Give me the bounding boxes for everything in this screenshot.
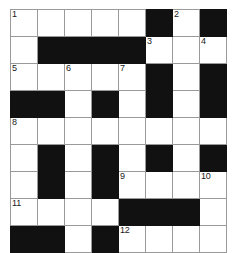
crossword-open-cell[interactable] bbox=[173, 64, 200, 91]
crossword-open-cell[interactable] bbox=[119, 10, 146, 37]
crossword-open-cell[interactable] bbox=[65, 172, 92, 199]
crossword-open-cell[interactable]: 6 bbox=[65, 64, 92, 91]
cell-number: 5 bbox=[12, 64, 17, 75]
crossword-row: 34 bbox=[11, 37, 227, 64]
cell-number: 4 bbox=[201, 37, 206, 48]
crossword-block-cell bbox=[92, 226, 119, 253]
crossword-block-cell bbox=[146, 91, 173, 118]
crossword-open-cell[interactable] bbox=[173, 91, 200, 118]
crossword-open-cell[interactable] bbox=[173, 145, 200, 172]
crossword-open-cell[interactable] bbox=[65, 226, 92, 253]
crossword-open-cell[interactable] bbox=[65, 91, 92, 118]
crossword-open-cell[interactable]: 12 bbox=[119, 226, 146, 253]
cell-number: 8 bbox=[12, 118, 17, 129]
crossword-open-cell[interactable] bbox=[92, 118, 119, 145]
crossword-open-cell[interactable] bbox=[92, 64, 119, 91]
crossword-row: 11 bbox=[11, 199, 227, 226]
crossword-open-cell[interactable] bbox=[65, 10, 92, 37]
crossword-open-cell[interactable] bbox=[200, 199, 227, 226]
cell-number: 2 bbox=[174, 10, 179, 21]
crossword-block-cell bbox=[146, 199, 173, 226]
crossword-block-cell bbox=[200, 91, 227, 118]
crossword-open-cell[interactable] bbox=[173, 37, 200, 64]
crossword-open-cell[interactable] bbox=[173, 226, 200, 253]
crossword-open-cell[interactable]: 11 bbox=[11, 199, 38, 226]
cell-number: 12 bbox=[120, 226, 130, 237]
crossword-open-cell[interactable] bbox=[92, 10, 119, 37]
crossword-block-cell bbox=[38, 91, 65, 118]
crossword-block-cell bbox=[38, 172, 65, 199]
crossword-block-cell bbox=[38, 226, 65, 253]
crossword-open-cell[interactable] bbox=[173, 118, 200, 145]
crossword-open-cell[interactable]: 10 bbox=[200, 172, 227, 199]
crossword-open-cell[interactable]: 4 bbox=[200, 37, 227, 64]
crossword-open-cell[interactable] bbox=[38, 64, 65, 91]
crossword-open-cell[interactable]: 5 bbox=[11, 64, 38, 91]
crossword-open-cell[interactable] bbox=[200, 226, 227, 253]
crossword-block-cell bbox=[11, 226, 38, 253]
crossword-grid-body: 123456789101112 bbox=[11, 10, 227, 253]
cell-number: 3 bbox=[147, 37, 152, 48]
crossword-open-cell[interactable] bbox=[11, 172, 38, 199]
crossword-row bbox=[11, 145, 227, 172]
crossword-open-cell[interactable] bbox=[119, 118, 146, 145]
crossword-open-cell[interactable]: 7 bbox=[119, 64, 146, 91]
crossword-open-cell[interactable] bbox=[38, 118, 65, 145]
crossword-open-cell[interactable] bbox=[92, 199, 119, 226]
crossword-open-cell[interactable] bbox=[146, 172, 173, 199]
crossword-block-cell bbox=[146, 145, 173, 172]
crossword-open-cell[interactable]: 9 bbox=[119, 172, 146, 199]
crossword-grid[interactable]: 123456789101112 bbox=[10, 9, 227, 253]
cell-number: 11 bbox=[12, 199, 21, 210]
cell-number: 9 bbox=[120, 172, 125, 183]
crossword-block-cell bbox=[11, 91, 38, 118]
cell-number: 1 bbox=[12, 10, 17, 21]
crossword-open-cell[interactable] bbox=[119, 145, 146, 172]
crossword-open-cell[interactable] bbox=[38, 10, 65, 37]
crossword-open-cell[interactable] bbox=[119, 91, 146, 118]
crossword-open-cell[interactable]: 2 bbox=[173, 10, 200, 37]
crossword-block-cell bbox=[200, 145, 227, 172]
crossword-block-cell bbox=[65, 37, 92, 64]
crossword-open-cell[interactable] bbox=[146, 226, 173, 253]
crossword-open-cell[interactable]: 8 bbox=[11, 118, 38, 145]
crossword-block-cell bbox=[38, 37, 65, 64]
cell-number: 7 bbox=[120, 64, 125, 75]
crossword-block-cell bbox=[200, 64, 227, 91]
crossword-row: 12 bbox=[11, 10, 227, 37]
crossword-open-cell[interactable] bbox=[173, 172, 200, 199]
crossword-open-cell[interactable] bbox=[65, 199, 92, 226]
crossword-row bbox=[11, 91, 227, 118]
crossword-open-cell[interactable] bbox=[11, 37, 38, 64]
crossword-block-cell bbox=[92, 172, 119, 199]
crossword-open-cell[interactable] bbox=[38, 199, 65, 226]
crossword-block-cell bbox=[38, 145, 65, 172]
crossword-block-cell bbox=[119, 199, 146, 226]
crossword-open-cell[interactable] bbox=[146, 118, 173, 145]
crossword-block-cell bbox=[200, 10, 227, 37]
crossword-row: 12 bbox=[11, 226, 227, 253]
crossword-open-cell[interactable]: 1 bbox=[11, 10, 38, 37]
crossword-open-cell[interactable]: 3 bbox=[146, 37, 173, 64]
crossword-row: 8 bbox=[11, 118, 227, 145]
crossword-block-cell bbox=[173, 199, 200, 226]
crossword-row: 910 bbox=[11, 172, 227, 199]
crossword-block-cell bbox=[146, 64, 173, 91]
cell-number: 10 bbox=[201, 172, 211, 183]
crossword-block-cell bbox=[92, 145, 119, 172]
crossword-row: 567 bbox=[11, 64, 227, 91]
cell-number: 6 bbox=[66, 64, 71, 75]
crossword-block-cell bbox=[92, 37, 119, 64]
crossword-block-cell bbox=[146, 10, 173, 37]
crossword-open-cell[interactable] bbox=[11, 145, 38, 172]
crossword-open-cell[interactable] bbox=[65, 118, 92, 145]
crossword-open-cell[interactable] bbox=[65, 145, 92, 172]
crossword-open-cell[interactable] bbox=[200, 118, 227, 145]
crossword-block-cell bbox=[92, 91, 119, 118]
crossword-block-cell bbox=[119, 37, 146, 64]
